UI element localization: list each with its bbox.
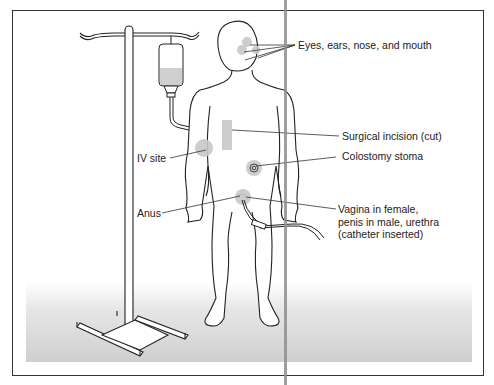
incision-highlight — [222, 120, 232, 150]
label-eyes-ears-nose-mouth: Eyes, ears, nose, and mouth — [298, 39, 432, 52]
label-anus: Anus — [137, 207, 161, 220]
label-urethra: Vagina in female, penis in male, urethra… — [338, 203, 439, 241]
label-urethra-line-2: penis in male, urethra — [338, 216, 439, 229]
label-urethra-line-1: Vagina in female, — [338, 203, 439, 216]
diagram-canvas: Eyes, ears, nose, and mouth Surgical inc… — [0, 0, 494, 385]
human-figure-icon — [185, 21, 298, 326]
label-iv-site: IV site — [137, 152, 166, 165]
label-surgical-incision: Surgical incision (cut) — [342, 130, 442, 143]
page-gutter-line — [284, 0, 287, 385]
label-colostomy-stoma: Colostomy stoma — [342, 150, 423, 163]
label-urethra-line-3: (catheter inserted) — [338, 228, 439, 241]
illustration — [0, 0, 494, 385]
